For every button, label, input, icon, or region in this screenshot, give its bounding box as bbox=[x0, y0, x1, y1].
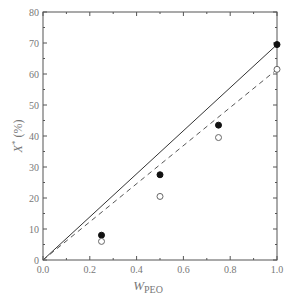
x-axis-label: WPEO bbox=[133, 278, 163, 295]
x-tick-label: 0.4 bbox=[130, 264, 143, 275]
x-axis-title: WPEO bbox=[133, 278, 163, 295]
open-circle-marker bbox=[274, 66, 280, 72]
x-tick-label: 0.6 bbox=[177, 264, 190, 275]
plot-border bbox=[43, 12, 277, 260]
x-tick-label: 0.2 bbox=[84, 264, 97, 275]
y-tick-label: 40 bbox=[29, 131, 39, 142]
plot-frame bbox=[43, 12, 277, 260]
solid-line bbox=[43, 45, 277, 260]
y-axis-ticks: 01020304050607080 bbox=[29, 7, 277, 266]
filled-circle-marker bbox=[216, 122, 222, 128]
dashed-line bbox=[43, 69, 277, 260]
y-tick-label: 50 bbox=[29, 100, 39, 111]
open-circle-marker bbox=[99, 238, 105, 244]
x-tick-label: 0.8 bbox=[224, 264, 237, 275]
chart: 01020304050607080 0.00.20.40.60.81.0 WPE… bbox=[0, 0, 287, 298]
y-tick-label: 60 bbox=[29, 69, 39, 80]
y-tick-label: 30 bbox=[29, 162, 39, 173]
y-tick-label: 10 bbox=[29, 224, 39, 235]
y-axis-title: X* (%) bbox=[10, 120, 25, 154]
fit-lines bbox=[43, 45, 277, 260]
x-tick-label: 0.0 bbox=[37, 264, 50, 275]
y-tick-label: 70 bbox=[29, 38, 39, 49]
filled-circle-marker bbox=[274, 42, 280, 48]
data-points bbox=[99, 42, 281, 245]
filled-circle-marker bbox=[99, 232, 105, 238]
open-circle-marker bbox=[157, 193, 163, 199]
y-tick-label: 20 bbox=[29, 193, 39, 204]
x-tick-label: 1.0 bbox=[271, 264, 284, 275]
y-axis-label: X* (%) bbox=[10, 120, 25, 154]
filled-circle-marker bbox=[157, 172, 163, 178]
open-circle-marker bbox=[216, 135, 222, 141]
y-tick-label: 80 bbox=[29, 7, 39, 18]
